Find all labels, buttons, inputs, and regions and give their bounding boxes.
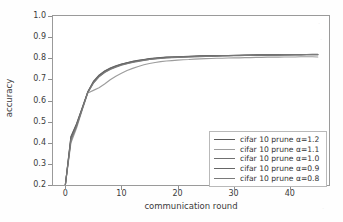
y-tick-label: 0.7 (20, 75, 46, 83)
y-tick-label: 0.3 (20, 160, 46, 168)
legend-item-label: cifar 10 prune α=0.9 (240, 164, 319, 173)
legend-item-label: cifar 10 prune α=1.0 (240, 154, 319, 163)
y-tick-mark (48, 101, 52, 102)
chart-screenshot: 0.20.30.40.50.60.70.80.91.0 010203040 co… (0, 0, 343, 222)
x-tick-mark (178, 186, 179, 190)
legend: cifar 10 prune α=1.2cifar 10 prune α=1.1… (209, 131, 327, 187)
legend-color-swatch (214, 139, 235, 140)
x-tick-label: 20 (165, 190, 191, 198)
y-tick-label: 0.8 (20, 54, 46, 62)
y-tick-label: 0.2 (20, 181, 46, 189)
y-tick-mark (48, 143, 52, 144)
artifact-mark: · (320, 36, 322, 44)
x-tick-label: 30 (221, 190, 247, 198)
x-tick-label: 40 (277, 190, 303, 198)
legend-item[interactable]: cifar 10 prune α=1.2 (214, 135, 322, 145)
y-tick-mark (48, 185, 52, 186)
x-tick-label: 0 (52, 190, 78, 198)
x-tick-mark (65, 186, 66, 190)
legend-item[interactable]: cifar 10 prune α=1.1 (214, 145, 322, 155)
artifact-mark: · (322, 205, 324, 213)
legend-color-swatch (214, 178, 235, 179)
legend-item-label: cifar 10 prune α=1.2 (240, 135, 319, 144)
y-tick-mark (48, 122, 52, 123)
x-tick-mark (121, 186, 122, 190)
legend-item[interactable]: cifar 10 prune α=0.9 (214, 164, 322, 174)
x-axis-title: communication round (52, 201, 330, 211)
x-tick-label: 10 (108, 190, 134, 198)
y-axis-title: accuracy (4, 68, 14, 128)
y-tick-label: 0.6 (20, 97, 46, 105)
y-tick-mark (48, 58, 52, 59)
y-tick-mark (48, 164, 52, 165)
y-tick-label: 0.5 (20, 118, 46, 126)
legend-item[interactable]: cifar 10 prune α=1.0 (214, 154, 322, 164)
legend-color-swatch (214, 158, 235, 159)
y-tick-label: 1.0 (20, 12, 46, 20)
y-tick-label: 0.4 (20, 139, 46, 147)
legend-color-swatch (214, 149, 235, 150)
y-tick-label: 0.9 (20, 33, 46, 41)
artifact-mark: · (318, 20, 320, 28)
y-tick-mark (48, 16, 52, 17)
legend-color-swatch (214, 168, 235, 169)
legend-item-label: cifar 10 prune α=1.1 (240, 145, 319, 154)
legend-item-label: cifar 10 prune α=0.8 (240, 174, 319, 183)
legend-item[interactable]: cifar 10 prune α=0.8 (214, 173, 322, 183)
y-tick-mark (48, 79, 52, 80)
y-tick-mark (48, 37, 52, 38)
